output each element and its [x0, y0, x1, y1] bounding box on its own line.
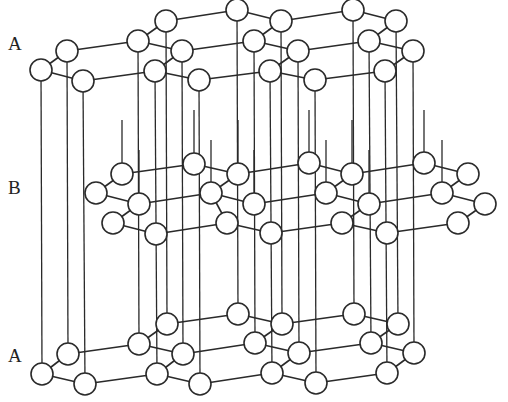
carbon-atom: [144, 60, 166, 82]
carbon-atom: [374, 60, 396, 82]
carbon-atom: [474, 193, 496, 215]
carbon-atom: [288, 342, 310, 364]
carbon-atom: [72, 70, 94, 92]
carbon-atom: [227, 303, 249, 325]
carbon-atom: [331, 212, 353, 234]
carbon-atom: [145, 223, 167, 245]
interlayer-line: [182, 51, 183, 354]
carbon-atom: [200, 182, 222, 204]
interlayer-line: [199, 80, 200, 384]
interlayer-line: [41, 70, 42, 374]
layer-a-bottom: [31, 303, 425, 395]
carbon-atom: [216, 212, 238, 234]
carbon-atom: [31, 363, 53, 385]
carbon-atom: [146, 363, 168, 385]
interlayer-line: [281, 21, 282, 324]
carbon-atom: [30, 59, 52, 81]
interlayer-line: [353, 10, 354, 314]
carbon-atom: [304, 69, 326, 91]
carbon-atom: [227, 163, 249, 185]
carbon-atom: [171, 40, 193, 62]
carbon-atom: [57, 343, 79, 365]
carbon-atom: [74, 373, 96, 395]
carbon-atom: [244, 332, 266, 354]
carbon-atom: [85, 182, 107, 204]
carbon-atom: [189, 373, 211, 395]
carbon-atom: [270, 10, 292, 32]
carbon-atom: [376, 222, 398, 244]
carbon-atom: [128, 193, 150, 215]
interlayer-line: [67, 51, 68, 354]
carbon-atom: [287, 40, 309, 62]
carbon-atom: [155, 10, 177, 32]
interlayer-line: [166, 21, 167, 324]
carbon-atom: [457, 163, 479, 185]
carbon-atom: [156, 313, 178, 335]
layer-label-b: B: [8, 178, 21, 197]
carbon-atom: [271, 313, 293, 335]
carbon-atom: [358, 30, 380, 52]
carbon-atom: [343, 303, 365, 325]
carbon-atom: [111, 163, 133, 185]
carbon-atoms: [30, 0, 496, 395]
carbon-atom: [341, 163, 363, 185]
interlayer-line: [315, 80, 316, 383]
carbon-atom: [259, 60, 281, 82]
carbon-atom: [226, 0, 248, 21]
carbon-atom: [56, 40, 78, 62]
carbon-atom: [358, 193, 380, 215]
layer-a-top: [30, 0, 424, 92]
carbon-atom: [298, 152, 320, 174]
carbon-atom: [315, 182, 337, 204]
carbon-atom: [243, 30, 265, 52]
carbon-atom: [261, 362, 283, 384]
carbon-atom: [402, 40, 424, 62]
layer-b-middle: [85, 152, 496, 245]
interlayer-line: [413, 51, 414, 353]
carbon-atom: [376, 362, 398, 384]
carbon-atom: [172, 343, 194, 365]
carbon-atom: [447, 212, 469, 234]
carbon-atom: [413, 152, 435, 174]
layer-label-a-top: A: [8, 34, 22, 53]
carbon-atom: [102, 212, 124, 234]
carbon-atom: [243, 193, 265, 215]
carbon-atom: [385, 10, 407, 32]
carbon-atom: [183, 153, 205, 175]
carbon-atom: [387, 313, 409, 335]
interlayer-line: [83, 81, 85, 384]
carbon-atom: [342, 0, 364, 21]
carbon-atom: [360, 332, 382, 354]
interlayer-line: [298, 51, 299, 353]
lattice-canvas: [0, 0, 508, 402]
carbon-atom: [127, 30, 149, 52]
carbon-atom: [403, 342, 425, 364]
carbon-atom: [431, 182, 453, 204]
interlayer-line: [396, 21, 398, 324]
layer-label-a-bottom: A: [8, 346, 22, 365]
carbon-atom: [188, 69, 210, 91]
carbon-atom: [128, 333, 150, 355]
carbon-atom: [260, 222, 282, 244]
graphite-structure-diagram: A B A: [0, 0, 508, 402]
carbon-atom: [305, 372, 327, 394]
